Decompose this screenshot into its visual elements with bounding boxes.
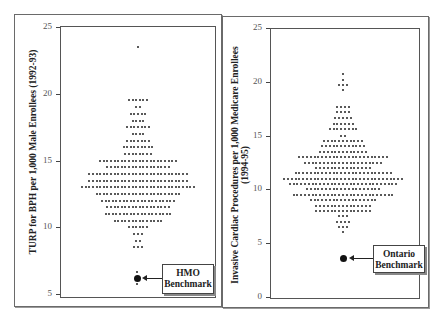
data-dot	[121, 193, 123, 195]
data-dot	[164, 193, 166, 195]
data-dot	[135, 160, 137, 162]
ontario-benchmark-label: Ontario Benchmark	[373, 245, 425, 273]
data-dot	[331, 140, 333, 142]
data-dot	[361, 162, 363, 164]
data-dot	[361, 140, 363, 142]
data-dot	[346, 183, 348, 185]
data-dot	[340, 178, 342, 180]
data-dot	[342, 205, 344, 207]
data-dot	[369, 210, 371, 212]
data-dot	[346, 162, 348, 164]
data-dot	[310, 199, 312, 201]
ontario-benchmark-marker	[340, 255, 347, 262]
ontario-benchmark-line1: Ontario	[374, 249, 424, 260]
data-dot	[144, 200, 146, 202]
data-dot	[323, 162, 325, 164]
data-dot	[135, 220, 137, 222]
data-dot	[380, 194, 382, 196]
data-dot	[348, 111, 350, 113]
data-dot	[153, 220, 155, 222]
data-dot	[162, 200, 164, 202]
data-dot	[384, 194, 386, 196]
data-dot	[119, 213, 121, 215]
data-dot	[323, 194, 325, 196]
data-dot	[361, 183, 363, 185]
data-dot	[352, 123, 354, 125]
data-dot	[327, 205, 329, 207]
data-dot	[401, 178, 403, 180]
data-dot	[352, 128, 354, 130]
data-dot	[144, 140, 146, 142]
data-dot	[333, 123, 335, 125]
data-dot	[166, 213, 168, 215]
data-dot	[128, 160, 130, 162]
data-dot	[114, 180, 116, 182]
data-dot	[164, 180, 166, 182]
data-dot	[148, 213, 150, 215]
data-dot	[325, 178, 327, 180]
data-dot	[141, 146, 143, 148]
data-dot	[112, 213, 114, 215]
data-dot	[141, 233, 143, 235]
data-dot	[308, 183, 310, 185]
data-dot	[346, 151, 348, 153]
data-dot	[342, 183, 344, 185]
data-dot	[164, 173, 166, 175]
data-dot	[157, 180, 159, 182]
data-dot	[382, 156, 384, 158]
y-tick-mark	[266, 243, 270, 244]
ontario-benchmark-line2: Benchmark	[374, 260, 424, 271]
data-dot	[101, 200, 103, 202]
data-dot	[357, 162, 359, 164]
data-dot	[342, 84, 344, 86]
data-dot	[386, 156, 388, 158]
data-dot	[331, 194, 333, 196]
data-dot	[327, 151, 329, 153]
data-dot	[132, 206, 134, 208]
data-dot	[304, 194, 306, 196]
data-dot	[342, 210, 344, 212]
data-dot	[327, 167, 329, 169]
data-dot	[105, 200, 107, 202]
data-dot	[126, 140, 128, 142]
data-dot	[323, 210, 325, 212]
right-y-axis-label: Invasive Cardiac Procedures per 1,000 Me…	[230, 45, 250, 285]
data-dot	[186, 180, 188, 182]
data-dot	[350, 210, 352, 212]
data-dot	[331, 210, 333, 212]
y-tick-mark	[266, 136, 270, 137]
data-dot	[153, 160, 155, 162]
hmo-benchmark-whisker-bottom	[136, 283, 138, 285]
data-dot	[96, 180, 98, 182]
data-dot	[361, 205, 363, 207]
data-dot	[350, 194, 352, 196]
data-dot	[346, 84, 348, 86]
data-dot	[340, 111, 342, 113]
data-dot	[388, 183, 390, 185]
data-dot	[338, 151, 340, 153]
data-dot	[346, 226, 348, 228]
data-dot	[114, 220, 116, 222]
data-dot	[365, 194, 367, 196]
data-dot	[139, 240, 141, 242]
data-dot	[369, 194, 371, 196]
data-dot	[346, 210, 348, 212]
data-dot	[130, 213, 132, 215]
data-dot	[92, 173, 94, 175]
data-dot	[350, 205, 352, 207]
data-dot	[137, 113, 139, 115]
hmo-benchmark-line2: Benchmark	[163, 279, 213, 290]
data-dot	[342, 167, 344, 169]
data-dot	[171, 180, 173, 182]
data-dot	[367, 178, 369, 180]
data-dot	[386, 178, 388, 180]
data-dot	[139, 220, 141, 222]
data-dot	[380, 162, 382, 164]
data-dot	[150, 186, 152, 188]
data-dot	[306, 156, 308, 158]
data-dot	[390, 178, 392, 180]
y-tick-mark	[266, 82, 270, 83]
data-dot	[150, 153, 152, 155]
data-dot	[150, 220, 152, 222]
data-dot	[99, 160, 101, 162]
